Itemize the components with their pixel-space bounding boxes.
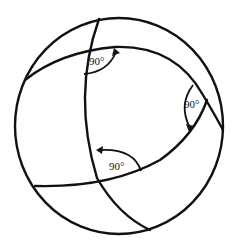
great-circle-arc-c <box>35 100 207 186</box>
arrow-head-top <box>112 48 120 56</box>
angle-label-right: 90° <box>184 98 199 110</box>
sphere-diagram: 90° 90° 90° <box>0 0 237 249</box>
arrow-head-bottom <box>96 146 103 154</box>
great-circle-arc-b <box>25 47 223 130</box>
angle-label-bottom: 90° <box>109 160 124 172</box>
angle-label-top: 90° <box>89 55 104 67</box>
